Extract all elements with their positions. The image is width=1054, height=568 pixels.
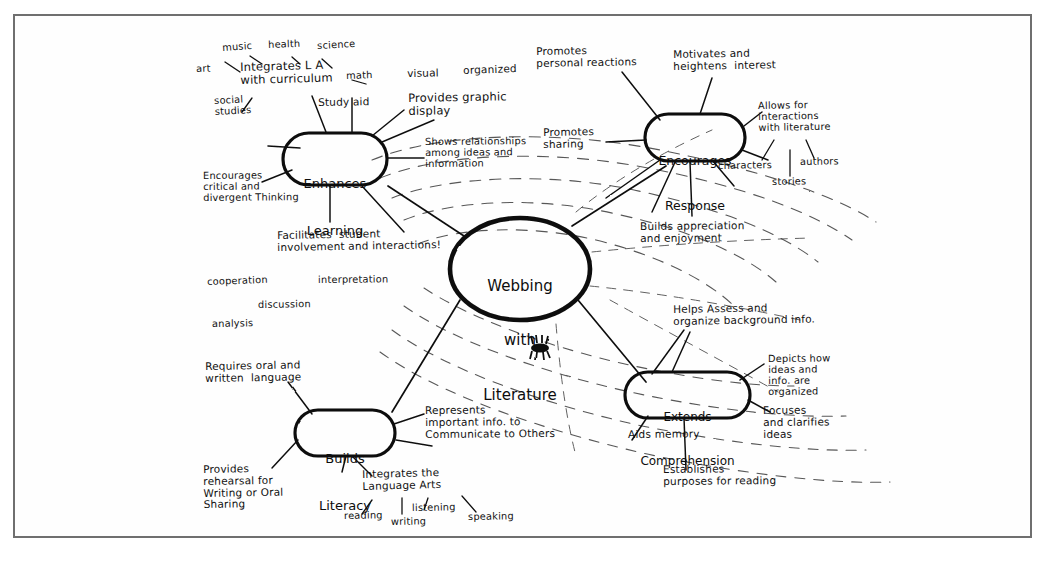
sublabel-establishes-purposes: Establishes purposes for reading (663, 464, 776, 488)
sublabel-social-studies: social studies (214, 95, 252, 119)
sublabel-authors: authors (800, 157, 839, 169)
sublabel-integrates-curriculum: Integrates L A with curriculum (240, 59, 333, 87)
sublabel-facilitates-student-involvement: Facilitates student involvement and inte… (277, 228, 441, 254)
sublabel-analysis: analysis (212, 319, 253, 331)
sublabel-stories: stories (772, 177, 806, 189)
sublabel-interpretation: interpretation (318, 275, 388, 287)
sublabel-provides-rehearsal: Provides rehearsal for Writing or Oral S… (203, 464, 284, 512)
sublabel-listening: listening (412, 503, 456, 515)
sublabel-study-aid: Study aid (318, 97, 370, 110)
sublabel-shows-relationships: Shows relationships among ideas and info… (425, 137, 526, 171)
node-webbing-with-literature (450, 218, 590, 320)
sublabel-allows-interactions-literature: Allows for interactions with literature (758, 101, 831, 135)
sublabel-helps-assess-organize: Helps Assess and organize background inf… (673, 303, 815, 329)
sublabel-math: math (346, 71, 373, 83)
concept-map-drawing (0, 0, 1054, 568)
sublabel-cooperation: cooperation (207, 276, 268, 289)
sublabel-encourages-critical-thinking: Encourages critical and divergent Thinki… (203, 171, 299, 205)
sublabel-depicts-how-organized: Depicts how ideas and info. are organize… (768, 354, 831, 398)
concept-map-page: Webbing with Literature Enhances Learnin… (0, 0, 1054, 568)
sublabel-speaking: speaking (468, 512, 514, 524)
sublabel-requires-oral-written-language: Requires oral and written language (205, 360, 302, 385)
node-builds-literacy (295, 410, 395, 456)
sublabel-promotes-sharing: Promotes sharing (543, 127, 594, 151)
sublabel-promotes-personal-reactions: Promotes personal reactions (536, 45, 637, 70)
sublabel-focuses-clarifies-ideas: Focuses and clarifies ideas (763, 405, 830, 441)
sublabel-characters: characters (718, 161, 772, 173)
sublabel-music: music (222, 42, 253, 55)
sublabel-motivates-heightens-interest: Motivates and heightens interest (673, 48, 776, 73)
spider-icon (530, 335, 550, 360)
sublabel-provides-graphic-display: Provides graphic display (408, 90, 507, 117)
sublabel-writing: writing (391, 517, 426, 529)
sublabel-discussion: discussion (258, 300, 311, 312)
sublabel-art: art (196, 64, 211, 75)
sublabel-science: science (317, 40, 356, 53)
sublabel-integrates-language-arts: Integrates the Language Arts (362, 468, 441, 494)
sublabel-visual: visual (407, 68, 439, 80)
sublabel-reading: reading (344, 511, 383, 523)
sublabel-health: health (268, 40, 301, 52)
sublabel-organized: organized (463, 64, 517, 78)
sublabel-aids-memory: Aids memory (628, 429, 700, 441)
sublabel-represents-important-info: Represents important info. to Communicat… (425, 405, 555, 441)
sublabel-builds-appreciation: Builds appreciation and enjoyment (640, 221, 745, 245)
